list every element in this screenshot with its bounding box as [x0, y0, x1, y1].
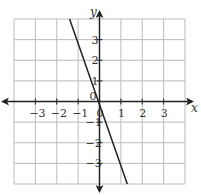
coordinate-plane: −3−2−10123321−1−2−30 x y: [0, 0, 201, 195]
x-tick-label: −2: [51, 107, 67, 120]
x-axis-label: x: [191, 101, 198, 115]
x-tick-label: 3: [161, 107, 168, 120]
y-axis-label: y: [89, 5, 97, 19]
y-tick-label: 3: [92, 34, 99, 47]
x-tick-label: 2: [139, 107, 146, 120]
y-tick-label: −1: [86, 116, 102, 129]
y-tick-label: 2: [92, 54, 99, 67]
y-tick-label: −2: [86, 137, 102, 150]
x-tick-label: −3: [29, 107, 45, 120]
y-tick-label: −3: [86, 157, 102, 170]
x-tick-label: 1: [118, 107, 125, 120]
